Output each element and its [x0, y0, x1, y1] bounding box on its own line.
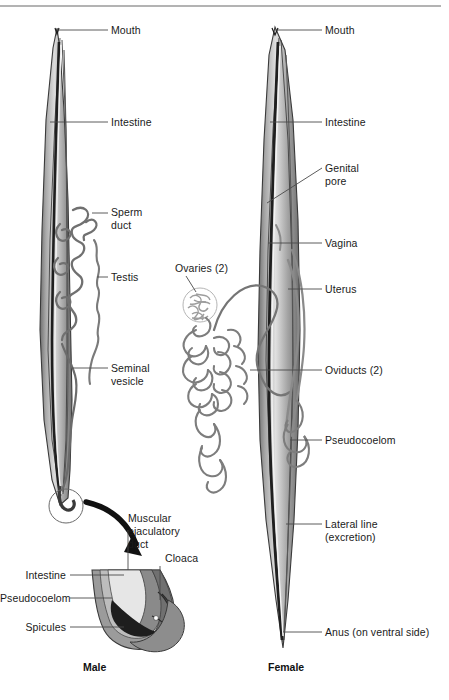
- inset-label-muscular-duct-line1: Muscular: [128, 512, 171, 525]
- ovaries-leader-line: [186, 276, 196, 292]
- inset-label-pseudocoelom: Pseudocoelom: [0, 592, 66, 605]
- female-label-oviducts: Oviducts (2): [325, 364, 383, 377]
- female-label-ovaries: Ovaries (2): [175, 262, 228, 275]
- female-label-vagina: Vagina: [325, 237, 358, 250]
- female-label-genital-pore-line2: pore: [325, 175, 346, 188]
- ovaries-cluster: [183, 288, 217, 322]
- female-label-intestine: Intestine: [325, 116, 366, 129]
- male-label-seminal-vesicle-line2: vesicle: [111, 375, 144, 388]
- female-label-genital-pore-line1: Genital: [325, 162, 359, 175]
- female-label-uterus: Uterus: [325, 283, 357, 296]
- female-label-lateral-line-line2: (excretion): [325, 531, 376, 544]
- inset-label-muscular-duct-line2: ejaculatory: [128, 525, 180, 538]
- inset-label-cloaca: Cloaca: [165, 552, 198, 565]
- nematode-anatomy-figure: Mouth Intestine Sperm duct Testis Semina…: [0, 0, 449, 700]
- female-caption: Female: [268, 661, 304, 673]
- inset-label-spicules: Spicules: [0, 621, 66, 634]
- female-label-mouth: Mouth: [325, 24, 355, 37]
- male-label-sperm-duct-line1: Sperm: [111, 206, 142, 219]
- inset-label-intestine: Intestine: [0, 569, 66, 582]
- male-label-mouth: Mouth: [111, 24, 141, 37]
- male-label-testis: Testis: [111, 271, 138, 284]
- male-caption: Male: [83, 661, 106, 673]
- inset-male-tail-cross-section: [92, 570, 184, 652]
- female-label-anus: Anus (on ventral side): [325, 626, 429, 639]
- male-label-sperm-duct-line2: duct: [111, 219, 131, 232]
- female-label-pseudocoelom: Pseudocoelom: [325, 434, 396, 447]
- inset-label-muscular-duct-line3: duct: [128, 538, 148, 551]
- male-label-intestine: Intestine: [111, 116, 152, 129]
- male-label-seminal-vesicle-line1: Seminal: [111, 362, 150, 375]
- female-label-lateral-line-line1: Lateral line: [325, 518, 378, 531]
